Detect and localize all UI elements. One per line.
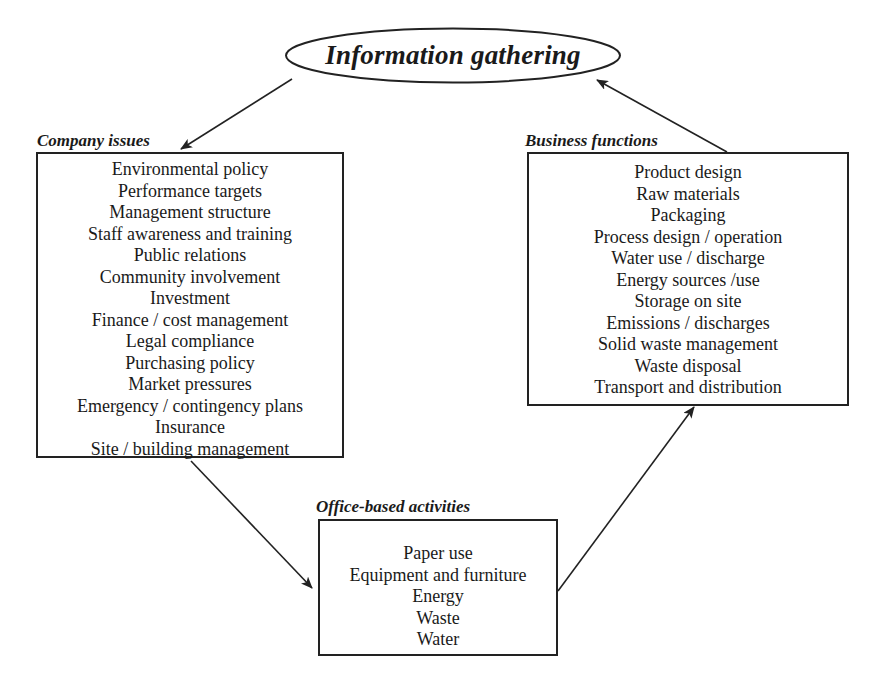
list-item: Management structure [38,202,342,224]
list-item: Insurance [38,417,342,439]
list-item: Product design [529,162,847,184]
list-item: Transport and distribution [529,377,847,399]
list-item: Purchasing policy [38,353,342,375]
office-based-activities-box: Paper use Equipment and furniture Energy… [318,519,558,656]
business-functions-title: Business functions [525,131,658,151]
office-based-activities-list: Paper use Equipment and furniture Energy… [320,543,556,651]
list-item: Storage on site [529,291,847,313]
list-item: Staff awareness and training [38,224,342,246]
list-item: Water [320,629,556,651]
list-item: Site / building management [38,439,342,461]
list-item: Performance targets [38,181,342,203]
office-based-activities-title: Office-based activities [316,497,470,517]
business-functions-list: Product design Raw materials Packaging P… [529,162,847,399]
list-item: Emissions / discharges [529,313,847,335]
company-issues-box: Environmental policy Performance targets… [36,152,344,458]
list-item: Environmental policy [38,159,342,181]
arrow-company-to-office [191,461,312,588]
list-item: Public relations [38,245,342,267]
list-item: Legal compliance [38,331,342,353]
company-issues-list: Environmental policy Performance targets… [38,159,342,460]
list-item: Finance / cost management [38,310,342,332]
list-item: Energy [320,586,556,608]
list-item: Paper use [320,543,556,565]
arrow-info-to-company [181,79,292,149]
business-functions-box: Product design Raw materials Packaging P… [527,152,849,406]
list-item: Water use / discharge [529,248,847,270]
information-gathering-label: Information gathering [285,28,621,83]
list-item: Equipment and furniture [320,565,556,587]
list-item: Emergency / contingency plans [38,396,342,418]
company-issues-title: Company issues [37,131,150,151]
list-item: Energy sources /use [529,270,847,292]
list-item: Process design / operation [529,227,847,249]
list-item: Waste [320,608,556,630]
arrow-office-to-business [558,407,694,591]
list-item: Market pressures [38,374,342,396]
list-item: Packaging [529,205,847,227]
list-item: Community involvement [38,267,342,289]
list-item: Waste disposal [529,356,847,378]
list-item: Raw materials [529,184,847,206]
list-item: Solid waste management [529,334,847,356]
list-item: Investment [38,288,342,310]
